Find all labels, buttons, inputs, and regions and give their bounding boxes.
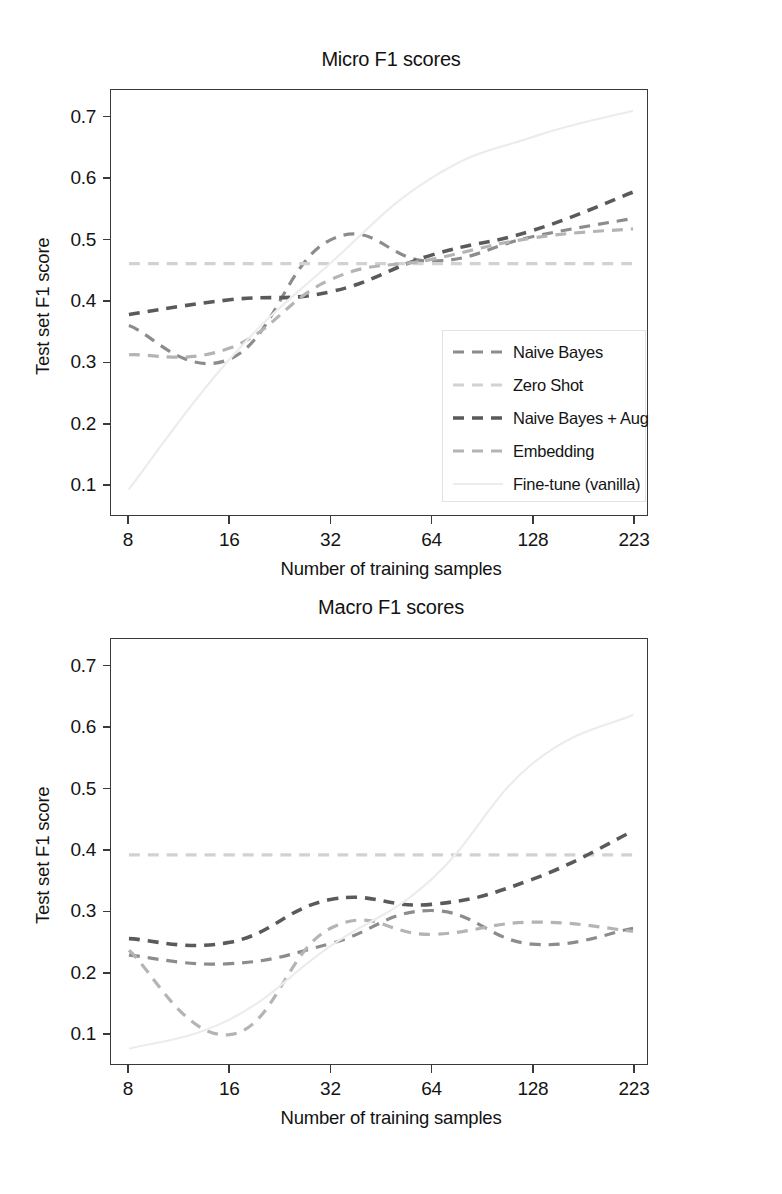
x-tick-label: 16 [219, 529, 240, 551]
legend-line-icon [452, 478, 504, 490]
x-tick-label: 223 [619, 1078, 650, 1100]
x-tick-mark [127, 516, 129, 524]
series-line [129, 920, 633, 1035]
y-tick-mark [103, 116, 110, 118]
y-tick-mark [103, 726, 110, 728]
legend-item[interactable]: Fine-tune (vanilla) [443, 467, 647, 501]
x-tick-label: 32 [320, 529, 341, 551]
legend-item[interactable]: Zero Shot [443, 368, 647, 402]
y-tick-mark [103, 1033, 110, 1035]
legend-item[interactable]: Naive Bayes + Aug [443, 401, 647, 435]
y-tick-label: 0.1 [38, 1023, 96, 1045]
x-tick-label: 8 [123, 529, 133, 551]
x-tick-label: 223 [619, 529, 650, 551]
legend-label: Embedding [513, 442, 594, 461]
series-line [129, 831, 633, 945]
y-tick-label: 0.5 [38, 778, 96, 800]
legend-item[interactable]: Embedding [443, 434, 647, 468]
page-title-micro: Micro F1 scores [0, 48, 782, 71]
y-tick-label: 0.6 [38, 167, 96, 189]
x-tick-mark [633, 516, 635, 524]
x-tick-mark [431, 1065, 433, 1073]
y-tick-label: 0.6 [38, 716, 96, 738]
legend-line-icon [452, 445, 504, 457]
y-tick-mark [103, 972, 110, 974]
y-tick-label: 0.5 [38, 229, 96, 251]
legend-label: Naive Bayes + Aug [513, 409, 649, 428]
y-tick-mark [103, 423, 110, 425]
x-tick-mark [532, 516, 534, 524]
x-axis-label-micro: Number of training samples [0, 558, 782, 580]
legend-label: Naive Bayes [513, 343, 603, 362]
x-tick-mark [228, 516, 230, 524]
x-tick-mark [330, 1065, 332, 1073]
x-tick-mark [228, 1065, 230, 1073]
x-tick-label: 32 [320, 1078, 341, 1100]
x-tick-label: 128 [517, 1078, 548, 1100]
x-tick-mark [127, 1065, 129, 1073]
y-tick-mark [103, 239, 110, 241]
y-tick-mark [103, 788, 110, 790]
figure-page: Micro F1 scores Test set F1 score 0.10.2… [0, 0, 782, 1194]
x-axis-label-macro: Number of training samples [0, 1107, 782, 1129]
y-tick-label: 0.3 [38, 351, 96, 373]
y-tick-label: 0.7 [38, 106, 96, 128]
x-tick-mark [431, 516, 433, 524]
legend-line-icon [452, 346, 504, 358]
y-tick-label: 0.2 [38, 962, 96, 984]
legend-line-icon [452, 412, 504, 424]
y-tick-mark [103, 300, 110, 302]
x-tick-label: 128 [517, 529, 548, 551]
y-tick-label: 0.4 [38, 290, 96, 312]
y-tick-mark [103, 484, 110, 486]
y-tick-label: 0.4 [38, 839, 96, 861]
x-tick-label: 64 [421, 529, 442, 551]
x-tick-mark [633, 1065, 635, 1073]
plot-area-macro [110, 638, 648, 1065]
legend-label: Fine-tune (vanilla) [513, 475, 640, 494]
x-tick-label: 16 [219, 1078, 240, 1100]
x-tick-label: 64 [421, 1078, 442, 1100]
series-layer-macro [111, 639, 647, 1064]
series-line [129, 911, 633, 965]
y-tick-mark [103, 849, 110, 851]
y-tick-mark [103, 362, 110, 364]
series-line [129, 192, 633, 314]
legend: Naive BayesZero ShotNaive Bayes + AugEmb… [442, 330, 646, 502]
y-tick-label: 0.1 [38, 474, 96, 496]
y-tick-mark [103, 911, 110, 913]
micro-f1-figure: Micro F1 scores Test set F1 score 0.10.2… [0, 0, 782, 597]
y-tick-label: 0.2 [38, 413, 96, 435]
macro-f1-figure: Macro F1 scores Test set F1 score 0.10.2… [0, 578, 782, 1194]
y-tick-label: 0.3 [38, 900, 96, 922]
legend-line-icon [452, 379, 504, 391]
x-tick-mark [532, 1065, 534, 1073]
page-title-macro: Macro F1 scores [0, 596, 782, 619]
x-tick-mark [330, 516, 332, 524]
series-line [129, 715, 633, 1049]
y-tick-mark [103, 177, 110, 179]
legend-label: Zero Shot [513, 376, 583, 395]
legend-item[interactable]: Naive Bayes [443, 335, 647, 369]
y-tick-label: 0.7 [38, 655, 96, 677]
y-tick-mark [103, 665, 110, 667]
x-tick-label: 8 [123, 1078, 133, 1100]
